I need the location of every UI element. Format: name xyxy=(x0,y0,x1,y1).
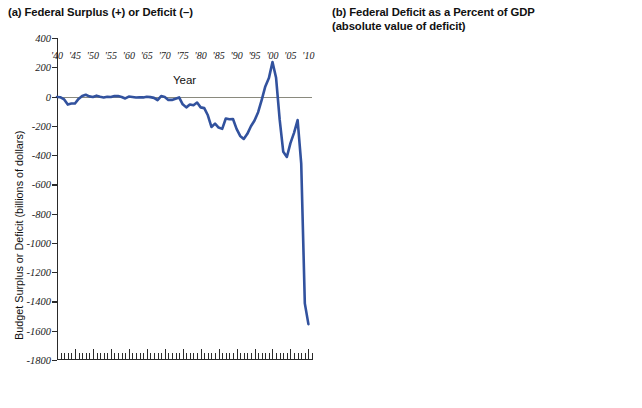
x-tick-minor xyxy=(172,353,173,360)
x-tick-minor xyxy=(143,353,144,360)
y-tick-label: -1000 xyxy=(27,237,52,248)
x-tick-label: '80 xyxy=(195,50,207,61)
y-tick xyxy=(52,243,57,244)
x-tick-minor xyxy=(176,353,177,360)
x-tick-major xyxy=(93,349,94,360)
y-tick-label: -600 xyxy=(32,179,51,190)
y-tick xyxy=(52,155,57,156)
y-tick-label: -1200 xyxy=(27,267,52,278)
x-tick-minor xyxy=(122,353,123,360)
x-tick-minor xyxy=(68,353,69,360)
y-tick xyxy=(52,360,57,361)
x-tick-label: '10 xyxy=(302,50,314,61)
x-tick-minor xyxy=(86,353,87,360)
x-tick-minor xyxy=(262,353,263,360)
x-tick-label: '50 xyxy=(87,50,99,61)
x-tick-minor xyxy=(244,353,245,360)
y-tick xyxy=(52,331,57,332)
x-tick-minor xyxy=(265,353,266,360)
x-tick-major xyxy=(255,349,256,360)
panel-a-y-axis-label: Budget Surplus or Deficit (billions of d… xyxy=(13,131,25,340)
x-tick-major xyxy=(219,349,220,360)
y-tick xyxy=(52,67,57,68)
x-tick-minor xyxy=(179,353,180,360)
x-tick-minor xyxy=(294,353,295,360)
x-tick-minor xyxy=(150,353,151,360)
x-tick-label: '55 xyxy=(105,50,117,61)
x-tick-minor xyxy=(186,353,187,360)
x-tick-label: '75 xyxy=(177,50,189,61)
x-tick-minor xyxy=(280,353,281,360)
y-tick xyxy=(52,184,57,185)
y-tick xyxy=(52,126,57,127)
x-tick-minor xyxy=(193,353,194,360)
x-tick-minor xyxy=(269,353,270,360)
x-tick-major xyxy=(308,349,309,360)
x-tick-minor xyxy=(229,353,230,360)
y-tick xyxy=(52,301,57,302)
x-tick-minor xyxy=(107,353,108,360)
x-tick-minor xyxy=(82,353,83,360)
panel-federal-surplus-or-deficit: (a) Federal Surplus (+) or Deficit (–) B… xyxy=(0,0,322,408)
y-tick-label: -800 xyxy=(32,208,51,219)
x-tick-minor xyxy=(100,353,101,360)
y-tick-label: 200 xyxy=(35,62,51,73)
x-tick-minor xyxy=(226,353,227,360)
x-tick-minor xyxy=(222,353,223,360)
x-tick-minor xyxy=(298,353,299,360)
figure-container: (a) Federal Surplus (+) or Deficit (–) B… xyxy=(0,0,642,408)
x-tick-minor xyxy=(312,353,313,360)
y-tick xyxy=(52,97,57,98)
x-tick-label: '05 xyxy=(284,50,296,61)
y-tick-label: -200 xyxy=(32,120,51,131)
panel-b-title: (b) Federal Deficit as a Percent of GDP … xyxy=(332,6,535,33)
x-tick-minor xyxy=(89,353,90,360)
x-tick-minor xyxy=(208,353,209,360)
x-tick-major xyxy=(237,349,238,360)
x-tick-minor xyxy=(125,353,126,360)
x-tick-minor xyxy=(132,353,133,360)
x-tick-label: '70 xyxy=(159,50,171,61)
panel-a-plot-area: Year 4002000-200-400-600-800-1000-1200-1… xyxy=(57,38,312,360)
x-tick-label: '95 xyxy=(248,50,260,61)
x-tick-minor xyxy=(204,353,205,360)
x-tick-major xyxy=(57,349,58,360)
x-tick-major xyxy=(75,349,76,360)
x-tick-label: '40 xyxy=(51,50,63,61)
x-tick-minor xyxy=(287,353,288,360)
x-tick-minor xyxy=(118,353,119,360)
x-tick-minor xyxy=(276,353,277,360)
x-tick-major xyxy=(111,349,112,360)
x-tick-minor xyxy=(140,353,141,360)
panel-a-title: (a) Federal Surplus (+) or Deficit (–) xyxy=(8,6,193,20)
x-tick-minor xyxy=(215,353,216,360)
panel-a-x-axis-label: Year xyxy=(57,74,312,86)
x-tick-minor xyxy=(71,353,72,360)
x-tick-minor xyxy=(104,353,105,360)
x-tick-minor xyxy=(283,353,284,360)
y-tick xyxy=(52,272,57,273)
x-tick-minor xyxy=(79,353,80,360)
x-tick-minor xyxy=(251,353,252,360)
x-tick-major xyxy=(165,349,166,360)
x-tick-label: '90 xyxy=(230,50,242,61)
x-tick-label: '85 xyxy=(213,50,225,61)
x-tick-major xyxy=(290,349,291,360)
x-tick-label: '60 xyxy=(123,50,135,61)
x-tick-minor xyxy=(301,353,302,360)
panel-a-data-line xyxy=(57,38,312,360)
x-tick-major xyxy=(272,349,273,360)
x-tick-major xyxy=(201,349,202,360)
x-tick-minor xyxy=(136,353,137,360)
x-tick-minor xyxy=(247,353,248,360)
y-tick-label: -1600 xyxy=(27,325,52,336)
x-tick-minor xyxy=(158,353,159,360)
x-tick-minor xyxy=(190,353,191,360)
y-tick xyxy=(52,214,57,215)
x-tick-minor xyxy=(258,353,259,360)
x-tick-minor xyxy=(161,353,162,360)
x-tick-major xyxy=(183,349,184,360)
y-tick xyxy=(52,38,57,39)
x-tick-minor xyxy=(64,353,65,360)
x-tick-minor xyxy=(61,353,62,360)
